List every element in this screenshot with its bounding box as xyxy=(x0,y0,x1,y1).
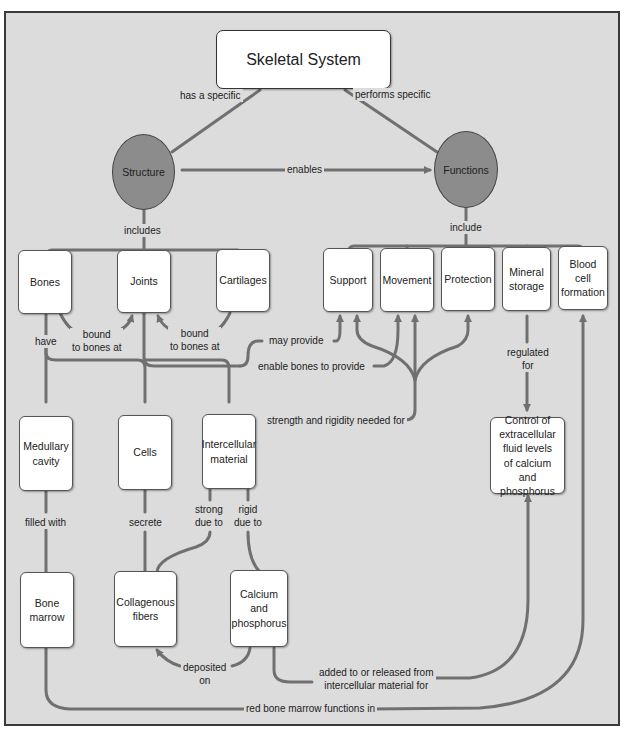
node-structure: Structure xyxy=(112,134,175,210)
node-mineral-storage: Mineral storage xyxy=(502,247,551,311)
node-protection: Protection xyxy=(441,247,495,311)
node-cells: Cells xyxy=(118,415,172,490)
node-cartilages: Cartilages xyxy=(216,249,270,312)
node-collagenous-fibers: Collagenous fibers xyxy=(114,571,177,647)
label-have: have xyxy=(33,335,59,348)
node-bones: Bones xyxy=(18,250,72,314)
label-added-released: added to or released from intercellular … xyxy=(317,666,436,692)
node-blood-cell-formation: Blood cell formation xyxy=(558,246,608,310)
label-include: include xyxy=(448,221,484,234)
label-may-provide: may provide xyxy=(267,334,325,347)
label-filled-with: filled with xyxy=(23,516,68,529)
label-secrete: secrete xyxy=(127,516,164,529)
label-regulated-for: regulated for xyxy=(505,346,551,372)
label-has-a-specific: has a specific xyxy=(178,89,243,102)
label-enable-bones-to-provide: enable bones to provide xyxy=(256,360,367,373)
node-joints: Joints xyxy=(117,250,171,313)
label-deposited-on: deposited on xyxy=(181,661,228,687)
label-includes: includes xyxy=(122,224,163,237)
label-red-marrow-functions: red bone marrow functions in xyxy=(244,702,377,715)
label-bound-to-bones-2: bound to bones at xyxy=(168,327,221,353)
node-skeletal-system: Skeletal System xyxy=(216,30,391,89)
label-performs-specific: performs specific xyxy=(353,88,433,101)
node-calcium-phosphorus: Calcium and phosphorus xyxy=(230,570,288,647)
node-functions: Functions xyxy=(434,131,498,208)
label-bound-to-bones-1: bound to bones at xyxy=(70,328,123,354)
label-rigid-due-to: rigid due to xyxy=(232,503,264,529)
node-intercellular-material: Intercellular material xyxy=(202,414,256,489)
label-strength-rigidity: strength and rigidity needed for xyxy=(265,414,407,427)
node-bone-marrow: Bone marrow xyxy=(20,572,74,648)
node-support: Support xyxy=(323,248,373,312)
label-strong-due-to: strong due to xyxy=(193,503,225,529)
node-medullary-cavity: Medullary cavity xyxy=(19,416,73,491)
node-control-calcium-phosphorus: Control of extracellular fluid levels of… xyxy=(490,417,565,494)
node-movement: Movement xyxy=(380,248,434,312)
label-enables: enables xyxy=(285,163,324,176)
